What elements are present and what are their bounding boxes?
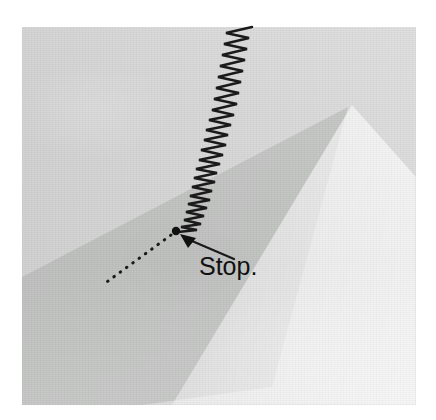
screenshot-canvas: Stop. (0, 0, 436, 420)
canvas-weave-texture (22, 27, 416, 405)
stop-label: Stop. (199, 254, 257, 279)
photograph (22, 27, 416, 405)
